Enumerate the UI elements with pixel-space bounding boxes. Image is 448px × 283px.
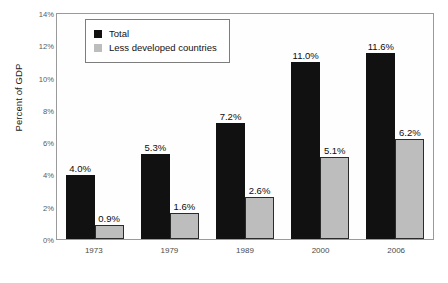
x-axis-tick-label: 1989 — [207, 246, 283, 255]
bar-value-label: 6.2% — [399, 127, 421, 138]
bar-pair: 11.6%6.2% — [358, 14, 433, 239]
bar-value-label: 11.6% — [368, 41, 394, 52]
y-axis-tick-label: 14% — [26, 10, 54, 19]
bar-value-label: 7.2% — [220, 111, 242, 122]
chart-legend: TotalLess developed countries — [85, 19, 230, 63]
bar-group: 11.0%5.1% — [283, 14, 358, 239]
y-axis-tick-label: 0% — [26, 236, 54, 245]
bar-value-label: 1.6% — [173, 201, 195, 212]
legend-swatch-icon — [94, 30, 102, 38]
legend-swatch-icon — [94, 44, 102, 52]
x-axis-tick-label: 1979 — [132, 246, 208, 255]
x-axis-tick-labels: 19731979198920002006 — [56, 246, 434, 255]
bar[interactable]: 5.3% — [141, 154, 170, 239]
bar-value-label: 5.1% — [324, 145, 346, 156]
x-axis-tick-label: 2000 — [283, 246, 359, 255]
legend-label: Less developed countries — [109, 42, 217, 54]
x-axis-tick-label: 2006 — [358, 246, 434, 255]
x-axis-tick-label: 1973 — [56, 246, 132, 255]
legend-item[interactable]: Total — [94, 28, 217, 40]
bar[interactable]: 0.9% — [95, 225, 124, 239]
bar[interactable]: 4.0% — [66, 175, 95, 239]
bar-value-label: 2.6% — [249, 185, 271, 196]
y-axis-title: Percent of GDP — [13, 38, 24, 158]
bar[interactable]: 1.6% — [170, 213, 199, 239]
y-axis-tick-label: 4% — [26, 171, 54, 180]
bar-value-label: 5.3% — [144, 142, 166, 153]
bar-slot: 5.1% — [320, 14, 349, 239]
y-axis-tick-label: 8% — [26, 106, 54, 115]
bar[interactable]: 11.0% — [291, 62, 320, 239]
legend-label: Total — [109, 28, 129, 40]
bar-slot: 2.6% — [245, 14, 274, 239]
bar-chart: Percent of GDP 0%2%4%6%8%10%12%14% 19731… — [0, 0, 448, 283]
bar-slot: 6.2% — [395, 14, 424, 239]
bar[interactable]: 5.1% — [320, 157, 349, 239]
bar[interactable]: 7.2% — [216, 123, 245, 239]
bar-slot: 11.6% — [366, 14, 395, 239]
y-axis-tick-label: 10% — [26, 74, 54, 83]
bar-pair: 11.0%5.1% — [283, 14, 358, 239]
y-axis-tick-label: 12% — [26, 42, 54, 51]
legend-item[interactable]: Less developed countries — [94, 42, 217, 54]
y-axis-tick-labels: 0%2%4%6%8%10%12%14% — [26, 14, 54, 240]
bar-value-label: 0.9% — [98, 213, 120, 224]
bar-value-label: 11.0% — [293, 50, 319, 61]
bar[interactable]: 6.2% — [395, 139, 424, 239]
bar[interactable]: 2.6% — [245, 197, 274, 239]
bar-group: 11.6%6.2% — [358, 14, 433, 239]
bar-slot: 11.0% — [291, 14, 320, 239]
plot-area: 4.0%0.9%5.3%1.6%7.2%2.6%11.0%5.1%11.6%6.… — [56, 13, 434, 240]
bar-value-label: 4.0% — [69, 163, 91, 174]
bar[interactable]: 11.6% — [366, 53, 395, 239]
y-axis-tick-label: 6% — [26, 139, 54, 148]
plot-inner: 4.0%0.9%5.3%1.6%7.2%2.6%11.0%5.1%11.6%6.… — [57, 14, 433, 239]
y-axis-tick-label: 2% — [26, 203, 54, 212]
